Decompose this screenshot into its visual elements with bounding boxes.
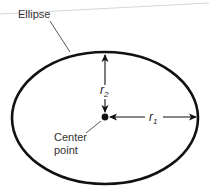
center-label-line2: point (54, 144, 78, 156)
r2-subscript: 2 (103, 90, 109, 99)
r2-label: r2 (100, 83, 109, 99)
center-label-line1: Center (54, 131, 87, 143)
r1-subscript: 1 (153, 117, 157, 126)
ellipse-diagram: Ellipse r2 r1 Center point (0, 0, 209, 189)
center-point-dot (102, 114, 109, 121)
ellipse-label: Ellipse (18, 8, 50, 20)
ellipse-leader-line (50, 21, 70, 52)
center-leader-line (86, 121, 101, 133)
r1-label: r1 (149, 110, 157, 126)
